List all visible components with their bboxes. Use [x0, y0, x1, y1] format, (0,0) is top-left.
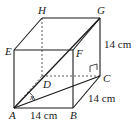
vertex-label-C: C: [103, 72, 111, 84]
cuboid-diagram: H G E F D C A B x 14 cm 14 cm 14 cm: [0, 0, 136, 120]
dimension-AB: 14 cm: [30, 109, 58, 120]
vertex-label-G: G: [97, 4, 105, 16]
dimension-BC: 14 cm: [88, 92, 116, 104]
vertex-label-D: D: [42, 78, 51, 90]
right-angle-marker: [90, 64, 97, 72]
angle-label-x: x: [29, 92, 34, 102]
dimension-CG: 14 cm: [104, 38, 132, 50]
vertex-label-B: B: [70, 109, 77, 120]
vertex-label-H: H: [37, 4, 47, 16]
vertex-label-A: A: [8, 109, 16, 120]
edge-EH: [14, 18, 42, 50]
vertex-label-F: F: [75, 47, 83, 59]
vertex-label-E: E: [4, 45, 12, 57]
